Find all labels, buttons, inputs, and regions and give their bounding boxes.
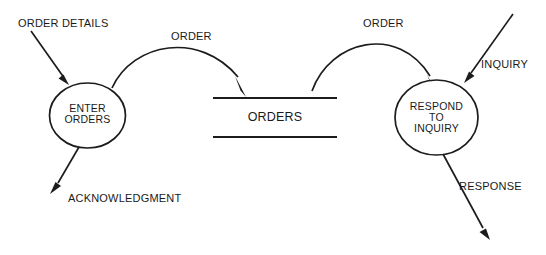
process-enter-orders[interactable]: ENTER ORDERS [50, 83, 126, 148]
flow-label-response: RESPONSE [459, 180, 522, 192]
flow-order-to-store[interactable]: ORDER [112, 30, 246, 97]
order-to-store-arrow-head [235, 76, 246, 97]
process-label-enter-orders-line2: ORDERS [64, 113, 110, 125]
response-arrow-head [480, 229, 491, 241]
flow-acknowledgment[interactable]: ACKNOWLEDGMENT [50, 147, 181, 204]
flow-response[interactable]: RESPONSE [443, 154, 522, 240]
flow-order-details[interactable]: ORDER DETAILS [18, 17, 108, 85]
process-label-respond-line3: INQUIRY [414, 122, 459, 134]
order-from-store-curve [312, 44, 430, 91]
flow-inquiry[interactable]: INQUIRY [464, 14, 529, 83]
data-store-label-orders: ORDERS [248, 110, 303, 124]
flow-label-order-to-store: ORDER [171, 30, 212, 42]
dfd-canvas: ORDER DETAILS ORDER ORDERS ORDER INQUIRY [0, 0, 546, 255]
order-details-arrow-line [31, 31, 64, 77]
data-store-orders[interactable]: ORDERS [213, 98, 337, 137]
acknowledgment-arrow-head [50, 182, 61, 194]
process-respond-to-inquiry[interactable]: RESPOND TO INQUIRY [395, 80, 478, 155]
flow-label-acknowledgment: ACKNOWLEDGMENT [68, 192, 181, 204]
order-to-store-curve [112, 48, 238, 88]
order-details-arrow-head [59, 75, 70, 86]
inquiry-arrow-head [464, 72, 475, 84]
flow-label-order-from-store: ORDER [363, 17, 404, 29]
flow-label-order-details: ORDER DETAILS [18, 17, 108, 29]
acknowledgment-arrow-line [58, 147, 79, 183]
data-flow-diagram: ORDER DETAILS ORDER ORDERS ORDER INQUIRY [0, 0, 546, 255]
flow-label-inquiry: INQUIRY [481, 58, 529, 70]
